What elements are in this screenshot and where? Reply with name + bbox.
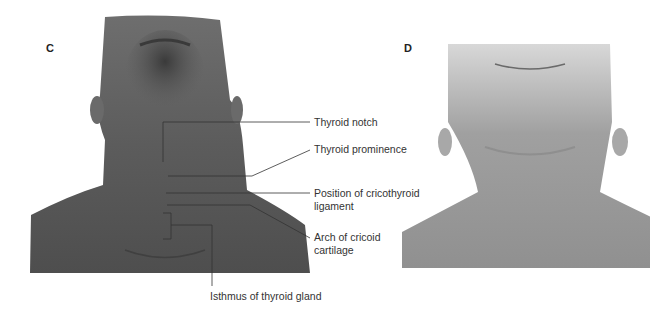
label-thyroid-notch: Thyroid notch [314, 116, 378, 129]
label-cricoid-cartilage: Arch of cricoid cartilage [314, 231, 381, 257]
leader-cricoid [167, 205, 310, 238]
label-thyroid-prominence: Thyroid prominence [314, 143, 407, 156]
leader-isthmus [171, 225, 212, 286]
leader-thyroid-prominence [168, 150, 310, 176]
label-cricoid-line1: Arch of cricoid [314, 231, 381, 244]
label-cricothyroid-ligament: Position of cricothyroid ligament [314, 187, 420, 213]
label-cricoid-line2: cartilage [314, 244, 381, 257]
leader-thyroid-notch [163, 122, 310, 162]
label-cricothyroid-line1: Position of cricothyroid [314, 187, 420, 200]
leader-lines [0, 0, 672, 314]
label-isthmus-thyroid-gland: Isthmus of thyroid gland [210, 290, 321, 303]
leader-isthmus-bracket [163, 213, 171, 239]
label-cricothyroid-line2: ligament [314, 200, 420, 213]
